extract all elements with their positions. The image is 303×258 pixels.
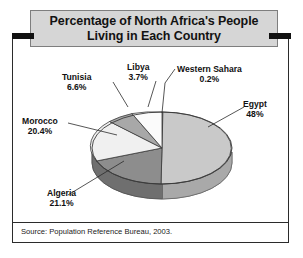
title-banner: Percentage of North Africa's People Livi… — [30, 10, 278, 47]
pie-label-algeria-value: 21.1% — [47, 198, 76, 208]
pie-label-algeria-name: Algeria — [47, 188, 76, 198]
leader-line-western-sahara — [162, 69, 175, 113]
pie-label-morocco-value: 20.4% — [22, 126, 58, 136]
source-note: Source: Population Reference Bureau, 200… — [21, 227, 172, 236]
title-line-2: Living in Each Country — [87, 29, 221, 44]
banner-tab-left — [12, 33, 34, 39]
pie-label-tunisia-value: 6.6% — [62, 82, 91, 92]
title-line-1: Percentage of North Africa's People — [50, 14, 259, 29]
pie-label-tunisia-name: Tunisia — [62, 72, 91, 82]
leader-line-libya — [148, 81, 156, 107]
leader-line-egypt — [208, 107, 244, 127]
pie-label-egypt-name: Egypt — [243, 99, 267, 109]
pie-label-tunisia: Tunisia 6.6% — [62, 72, 91, 92]
pie-label-algeria: Algeria 21.1% — [47, 188, 76, 208]
pie-label-libya-name: Libya — [127, 62, 149, 72]
pie-label-morocco-name: Morocco — [22, 116, 58, 126]
banner-tab-right — [269, 33, 291, 39]
source-divider — [13, 222, 288, 223]
pie-label-libya-value: 3.7% — [127, 72, 149, 82]
pie-label-egypt-value: 48% — [243, 109, 267, 119]
pie-label-egypt: Egypt 48% — [243, 99, 267, 119]
pie-label-western-sahara: Western Sahara 0.2% — [177, 64, 242, 84]
figure-container: Percentage of North Africa's People Livi… — [0, 0, 303, 258]
pie-label-morocco: Morocco 20.4% — [22, 116, 58, 136]
leader-line-tunisia — [113, 82, 128, 107]
pie-label-western-sahara-value: 0.2% — [177, 74, 242, 84]
pie-label-libya: Libya 3.7% — [127, 62, 149, 82]
pie-label-western-sahara-name: Western Sahara — [177, 64, 242, 74]
